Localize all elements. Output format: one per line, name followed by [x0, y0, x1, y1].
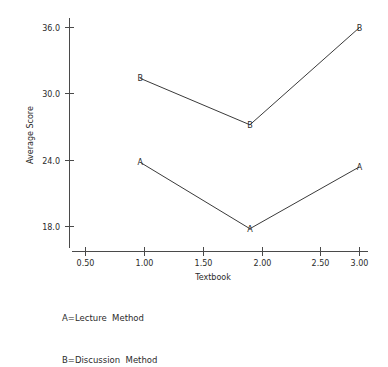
data-point-marker-b-1: B — [138, 74, 144, 83]
y-tick-label-3: 18.0 — [42, 223, 60, 232]
data-point-marker-b-3: B — [357, 24, 363, 33]
data-point-marker-a-1: A — [138, 158, 144, 167]
data-point-marker-a-3: A — [357, 163, 363, 172]
y-tick-label-0: 36.0 — [42, 24, 60, 33]
series-layer: AAABBB — [138, 24, 363, 234]
x-tick-labels: 0.50 1.00 1.50 2.00 2.50 3.00 — [77, 259, 369, 268]
series-line-a — [140, 162, 359, 228]
y-tick-labels: 36.0 30.0 24.0 18.0 — [42, 24, 60, 232]
x-tick-label-4: 2.50 — [312, 259, 330, 268]
x-tick-label-0: 0.50 — [77, 259, 95, 268]
x-axis-title: Textbook — [194, 273, 231, 282]
x-tick-label-2: 1.50 — [195, 259, 213, 268]
legend: A=Lecture Method B=Discussion Method — [62, 283, 157, 367]
data-point-marker-b-2: B — [247, 121, 253, 130]
x-tick-label-5: 3.00 — [351, 259, 369, 268]
y-tick-label-1: 30.0 — [42, 90, 60, 99]
legend-item-b: B=Discussion Method — [62, 353, 157, 367]
y-axis-title: Average Score — [26, 106, 35, 164]
legend-item-a: A=Lecture Method — [62, 311, 157, 325]
y-tick-label-2: 24.0 — [42, 157, 60, 166]
x-tick-label-1: 1.00 — [136, 259, 154, 268]
series-line-b — [140, 28, 359, 125]
data-point-marker-a-2: A — [247, 225, 253, 234]
x-tick-label-3: 2.00 — [254, 259, 272, 268]
